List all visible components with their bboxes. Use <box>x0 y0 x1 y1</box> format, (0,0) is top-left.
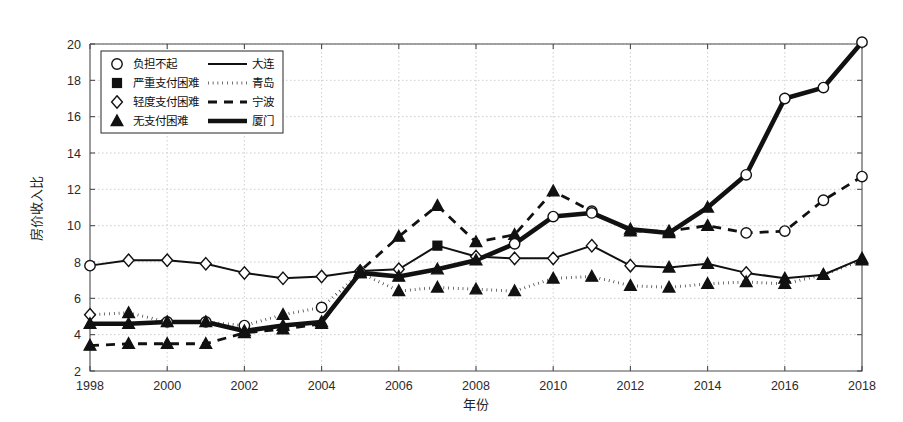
figure-canvas: 1998200020022004200620082010201220142016… <box>0 0 903 422</box>
marker-厦门-2015 <box>741 170 751 180</box>
x-tick-label: 2016 <box>771 379 799 393</box>
y-tick-label: 12 <box>67 183 81 197</box>
marker-厦门-2009 <box>509 239 519 249</box>
x-tick-label: 2018 <box>848 379 876 393</box>
y-tick-label: 4 <box>74 328 81 342</box>
x-tick-label: 2010 <box>539 379 567 393</box>
marker-厦门-2018 <box>857 37 867 47</box>
legend-label-city: 厦门 <box>252 114 274 128</box>
marker-青岛-2004 <box>316 302 326 312</box>
y-tick-label: 16 <box>67 110 81 124</box>
y-tick-label: 18 <box>67 74 81 88</box>
y-tick-label: 10 <box>67 219 81 233</box>
x-tick-label: 2000 <box>153 379 181 393</box>
y-tick-label: 8 <box>74 256 81 270</box>
legend-label-city: 宁波 <box>252 95 275 109</box>
legend-label-city: 青岛 <box>252 76 274 90</box>
y-tick-label: 2 <box>74 365 81 379</box>
marker-宁波-2017 <box>818 195 828 205</box>
y-tick-label: 20 <box>67 38 81 52</box>
marker-厦门-2016 <box>780 93 790 103</box>
legend-marker-square-filled <box>113 79 122 88</box>
x-tick-label: 2006 <box>385 379 413 393</box>
legend-marker-circle-open <box>112 59 122 69</box>
legend-label-category: 无支付困难 <box>133 114 188 128</box>
x-tick-label: 2004 <box>308 379 336 393</box>
legend-label-city: 大连 <box>252 57 275 71</box>
y-axis-title: 房价收入比 <box>29 176 44 241</box>
chart-legend: 负担不起大连严重支付困难青岛轻度支付困难宁波无支付困难厦门 <box>101 51 283 133</box>
legend-label-category: 轻度支付困难 <box>133 95 199 109</box>
x-tick-label: 2012 <box>616 379 644 393</box>
legend-label-category: 负担不起 <box>133 57 178 71</box>
legend-label-category: 严重支付困难 <box>133 76 199 90</box>
x-axis-title: 年份 <box>463 397 489 412</box>
line-chart: 1998200020022004200620082010201220142016… <box>0 0 903 422</box>
marker-大连-1998 <box>85 260 95 270</box>
marker-厦门-2010 <box>548 211 558 221</box>
marker-厦门-2017 <box>818 82 828 92</box>
marker-宁波-2016 <box>780 226 790 236</box>
y-tick-label: 6 <box>74 292 81 306</box>
y-tick-label: 14 <box>67 147 81 161</box>
x-tick-label: 2008 <box>462 379 490 393</box>
marker-宁波-2018 <box>857 171 867 181</box>
x-tick-label: 2014 <box>694 379 722 393</box>
marker-大连-2007 <box>433 241 442 250</box>
x-tick-label: 1998 <box>76 379 104 393</box>
marker-厦门-2011 <box>587 208 597 218</box>
marker-宁波-2015 <box>741 228 751 238</box>
x-tick-label: 2002 <box>230 379 258 393</box>
